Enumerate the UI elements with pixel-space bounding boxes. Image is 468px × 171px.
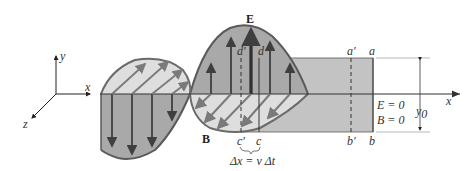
e-zero-label: E = 0: [376, 98, 404, 112]
displacement-label: Δx = v Δt: [229, 154, 276, 168]
a-prime-label: a′: [347, 44, 356, 58]
b-prime-label: b′: [347, 134, 356, 148]
y0-label: y0: [415, 104, 427, 121]
em-wave-diagram: y x z: [0, 0, 468, 171]
c-label: c: [256, 134, 262, 148]
c-prime-label: c′: [237, 134, 245, 148]
x-axis-label: x: [84, 80, 91, 94]
z-axis-label: z: [22, 117, 28, 131]
b-wave-lobe-left: [101, 59, 190, 94]
displacement-brace: [240, 147, 260, 154]
e-field-label: E: [246, 12, 254, 26]
d-label: d: [258, 44, 265, 58]
d-prime-label: d′: [237, 44, 246, 58]
y-axis-label: y: [59, 49, 66, 63]
right-x-axis-label: x: [445, 94, 452, 108]
e-wave-trough: [101, 94, 190, 159]
b-field-label: B: [202, 132, 210, 146]
b-label: b: [369, 134, 375, 148]
b-zero-label: B = 0: [377, 113, 404, 127]
coordinate-axes: y x z: [22, 49, 91, 131]
a-label: a: [369, 44, 375, 58]
